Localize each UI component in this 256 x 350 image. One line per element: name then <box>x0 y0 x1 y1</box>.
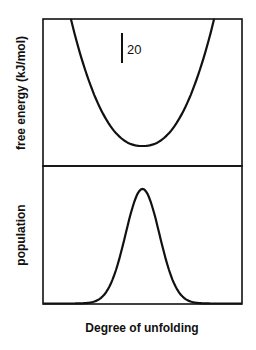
bottom-y-axis-label: population <box>14 204 28 265</box>
scale-bar-label: 20 <box>127 42 141 57</box>
bottom-panel-frame <box>43 166 242 304</box>
free-energy-curve <box>71 19 214 146</box>
x-axis-label: Degree of unfolding <box>85 321 198 335</box>
top-y-axis-label: free energy (kJ/mol) <box>14 36 28 150</box>
top-panel-frame <box>43 19 242 166</box>
chart-figure: 20 free energy (kJ/mol) population Degre… <box>0 0 256 350</box>
population-curve <box>43 189 242 304</box>
